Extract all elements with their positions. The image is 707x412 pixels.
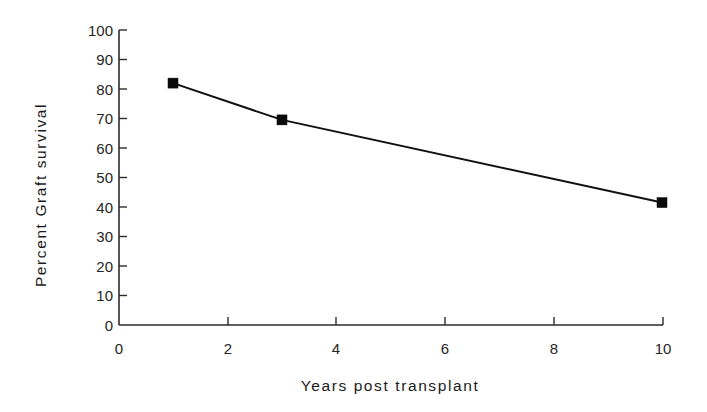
y-tick-label: 90 xyxy=(96,51,113,68)
y-tick-label: 20 xyxy=(96,258,113,275)
chart-figure: 100 90 80 70 60 50 40 30 20 10 0 0 2 4 6… xyxy=(0,0,707,412)
line-chart: 100 90 80 70 60 50 40 30 20 10 0 0 2 4 6… xyxy=(0,0,707,412)
x-axis-title: Years post transplant xyxy=(301,377,480,394)
y-tick-label: 50 xyxy=(96,169,113,186)
y-tick-label: 60 xyxy=(96,140,113,157)
data-point-marker xyxy=(168,78,178,88)
x-tick-label: 4 xyxy=(332,340,340,357)
y-tick-label: 30 xyxy=(96,228,113,245)
x-tick-label: 2 xyxy=(224,340,232,357)
y-axis-title: Percent Graft survival xyxy=(32,103,49,287)
y-tick-label: 40 xyxy=(96,199,113,216)
y-tick-label: 80 xyxy=(96,81,113,98)
y-tick-label: 100 xyxy=(88,22,113,39)
x-tick-label: 8 xyxy=(550,340,558,357)
data-point-marker xyxy=(277,115,287,125)
x-tick-label: 6 xyxy=(441,340,449,357)
x-tick-label: 10 xyxy=(655,340,672,357)
y-tick-label: 0 xyxy=(105,317,113,334)
y-tick-label: 10 xyxy=(96,287,113,304)
y-tick-label: 70 xyxy=(96,110,113,127)
data-point-marker xyxy=(657,198,667,208)
x-tick-label: 0 xyxy=(115,340,123,357)
